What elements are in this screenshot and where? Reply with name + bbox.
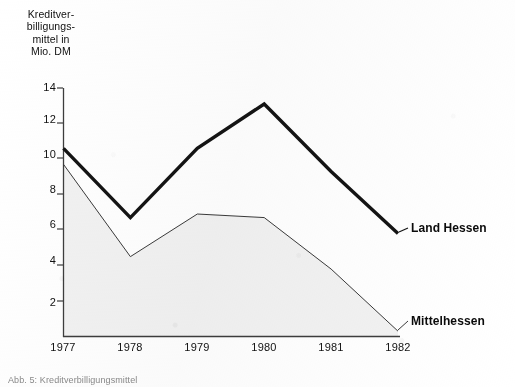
y-tick-label-8: 8 <box>26 183 56 195</box>
x-tick-label-1979: 1979 <box>174 341 220 353</box>
leader-line-mittelhessen <box>398 321 408 330</box>
x-tick-label-1980: 1980 <box>241 341 287 353</box>
y-tick-label-10: 10 <box>26 148 56 160</box>
y-axis-ticks <box>57 88 63 301</box>
figure-caption: Abb. 5: Kreditverbilligungsmittel <box>8 375 338 385</box>
data-line-land-hessen <box>64 104 399 234</box>
x-tick-label-1978: 1978 <box>107 341 153 353</box>
series-label-mittelhessen: Mittelhessen <box>411 314 485 328</box>
y-tick-label-2: 2 <box>26 296 56 308</box>
chart-container: Kreditver- billigungs- mittel in Mio. DM… <box>0 0 515 387</box>
x-tick-label-1981: 1981 <box>308 341 354 353</box>
y-axis-title: Kreditver- billigungs- mittel in Mio. DM <box>12 8 90 58</box>
area-fill-mittelhessen <box>64 164 399 336</box>
y-tick-label-6: 6 <box>26 218 56 230</box>
y-tick-label-4: 4 <box>26 254 56 266</box>
y-tick-label-12: 12 <box>26 113 56 125</box>
y-tick-label-14: 14 <box>26 81 56 93</box>
leader-line-land-hessen <box>399 228 408 232</box>
x-tick-label-1982: 1982 <box>375 341 421 353</box>
chart-plot-area <box>0 0 515 387</box>
x-tick-label-1977: 1977 <box>40 341 86 353</box>
series-label-land-hessen: Land Hessen <box>411 221 487 235</box>
